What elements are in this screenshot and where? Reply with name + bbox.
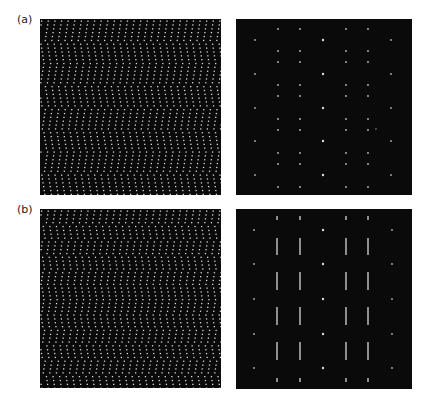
real-space-lattice-b	[40, 209, 221, 388]
diffraction-pattern-b	[236, 209, 412, 389]
diffraction-pattern-a	[236, 19, 412, 195]
panel-label-a: (a)	[17, 14, 32, 25]
panel-label-b: (b)	[17, 204, 33, 215]
real-space-lattice-a	[40, 19, 221, 195]
